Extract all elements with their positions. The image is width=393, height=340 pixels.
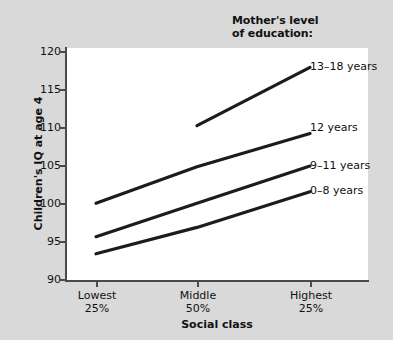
series-group-title-line-2: of education:	[232, 27, 382, 40]
x-tick-label-line-1: Middle	[180, 289, 216, 302]
x-tick-label: Highest25%	[266, 289, 356, 315]
x-tick-label: Lowest25%	[52, 289, 142, 315]
series-line	[96, 133, 310, 203]
y-tick-mark	[59, 89, 66, 91]
series-label: 9–11 years	[310, 160, 370, 171]
x-tick-label-line-2: 25%	[52, 302, 142, 315]
x-tick-label: Middle50%	[153, 289, 243, 315]
y-tick-label: 120	[17, 46, 61, 57]
series-label: 12 years	[310, 122, 358, 133]
series-label: 0–8 years	[310, 185, 363, 196]
x-tick-label-line-2: 50%	[153, 302, 243, 315]
y-tick-mark	[59, 279, 66, 281]
series-group-title: Mother's level of education:	[232, 14, 382, 40]
x-axis-title: Social class	[66, 318, 368, 331]
x-tick-mark	[197, 281, 199, 287]
y-tick-mark	[59, 203, 66, 205]
y-tick-label: 90	[17, 274, 61, 285]
x-tick-label-line-2: 25%	[266, 302, 356, 315]
x-axis-line	[65, 280, 369, 282]
y-tick-mark	[59, 51, 66, 53]
series-line	[197, 67, 310, 125]
series-label: 13–18 years	[310, 61, 377, 72]
x-tick-mark	[310, 281, 312, 287]
series-group-title-line-1: Mother's level	[232, 14, 382, 27]
y-tick-mark	[59, 127, 66, 129]
chart-figure: Mother's level of education: 12011511010…	[0, 0, 393, 340]
y-tick-mark	[59, 165, 66, 167]
y-tick-mark	[59, 241, 66, 243]
x-tick-label-line-1: Lowest	[78, 289, 116, 302]
x-tick-mark	[96, 281, 98, 287]
y-axis-title: Children's IQ at age 4	[32, 64, 45, 264]
x-tick-label-line-1: Highest	[290, 289, 332, 302]
